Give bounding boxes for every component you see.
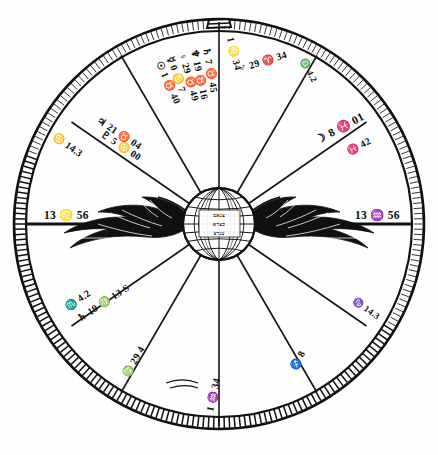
cusp-label-ic: 1 ♒ 34 [203, 377, 223, 413]
cusp-label-virgo-29: ♍ 29 4 [119, 344, 147, 380]
globe-inscription-line-1: צנאמ [213, 212, 225, 218]
globe-emblem: צנאמ כצרא ענרצ [183, 188, 255, 260]
chart-canvas: צנאמ כצרא ענרצ 13 ♌ 56 13 ♒ 56 1 ♌ 34 1 … [0, 0, 438, 455]
globe-inscription-line-3: ענרצ [213, 230, 224, 236]
globe-inscription-line-2: כצרא [213, 221, 226, 227]
cusp-label-cancer-14: ♋ 14.3 [50, 130, 85, 160]
cusp-label-sagittarius-8: ♐ 8 [287, 348, 308, 372]
astrological-chart-wheel: צנאמ כצרא ענרצ 13 ♌ 56 13 ♒ 56 1 ♌ 34 1 … [0, 0, 438, 455]
cusp-label-taurus-4: ♎ 4.2 [298, 56, 320, 84]
cusp-label-pisces-42: ♓ 42 [344, 134, 373, 158]
cusp-label-capricorn-14: ♑ 14.3 [351, 295, 383, 322]
bottom-flourish [166, 380, 198, 388]
cusp-label-descendant: 13 ♒ 56 [355, 208, 400, 222]
planet-label-mars: ♂ 29 ♈ 34 [237, 48, 288, 75]
globe-inscription: צנאמ כצרא ענרצ [199, 210, 240, 237]
cusp-label-ascendant: 13 ♌ 56 [44, 208, 89, 222]
